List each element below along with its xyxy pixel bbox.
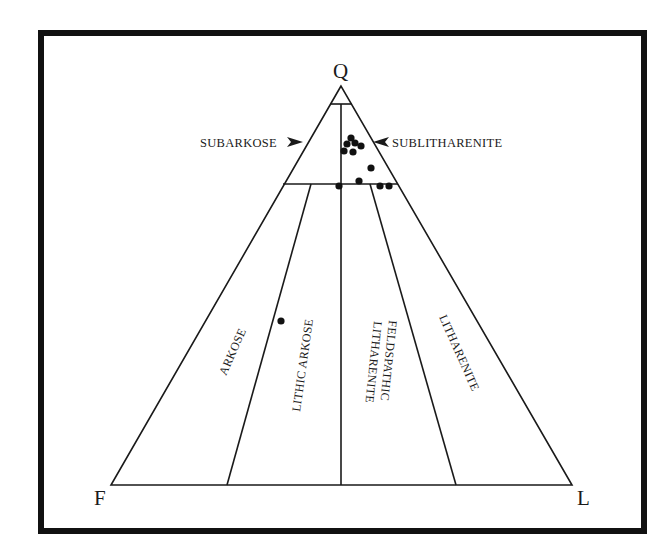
- vertex-q-label: Q: [333, 59, 348, 83]
- sample-point: [357, 142, 364, 149]
- sample-point: [349, 148, 356, 155]
- field-lithic-arkose-label: LITHIC ARKOSE: [289, 318, 316, 413]
- field-arkose-label: ARKOSE: [216, 326, 249, 377]
- subarkose-arrow-icon: [287, 137, 303, 147]
- sample-point: [335, 182, 342, 189]
- diagram-frame: [41, 33, 644, 531]
- sample-point: [277, 317, 284, 324]
- sample-point: [340, 147, 347, 154]
- sample-point: [355, 177, 362, 184]
- sample-point: [376, 182, 383, 189]
- sublitharenite-label: SUBLITHARENITE: [392, 136, 503, 150]
- vertex-f-label: F: [94, 486, 106, 510]
- vertex-l-label: L: [577, 486, 590, 510]
- sample-point: [367, 164, 374, 171]
- subarkose-label: SUBARKOSE: [200, 136, 277, 150]
- sample-point: [385, 182, 392, 189]
- sample-points: [277, 134, 392, 324]
- field-litharenite-label: LITHARENITE: [436, 313, 482, 394]
- ternary-diagram: Q F L SUBARKOSE SUBLITHARENITE ARKOSE LI…: [0, 0, 672, 553]
- sample-point: [343, 140, 350, 147]
